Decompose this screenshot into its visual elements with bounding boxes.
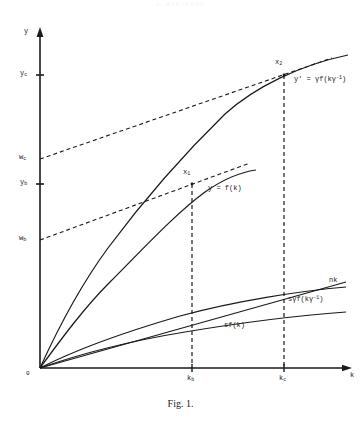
point-label-x2: x2 [275,59,282,67]
curve-label-s-gamma-f: sγf(kγ-1) [288,296,323,303]
x-axis-label: k [350,372,354,379]
origin-label: 0 [26,371,30,377]
x-tick-label-kc: kc [279,375,286,383]
y-tick-label-wc: wc [19,154,26,162]
x-tick-label-kb: kb [187,375,194,383]
curve-y-prime [40,55,348,368]
tangent-line-wc [40,58,332,159]
point-label-x1: x1 [183,169,190,177]
y-tick-label-yb: yb [20,179,27,187]
x-axis [40,365,352,371]
curve-label-s-f-k: sf(k) [224,322,245,329]
y-axis [37,27,44,368]
y-tick-label-yc: yc [20,70,27,78]
point-x2-marker [283,74,286,77]
curve-label-y-prime: y' = γf(kγ-1) [294,76,346,83]
figure-canvas [0,0,361,426]
figure-caption: Fig. 1. [0,398,361,409]
curve-s-f-k [40,312,346,368]
y-axis-label: y [24,28,28,35]
point-x1-marker [191,183,194,186]
curve-label-y-f-k: y = f(k) [208,185,242,192]
y-tick-label-wb: wb [19,235,26,243]
curve-label-nk: nk [329,277,337,284]
